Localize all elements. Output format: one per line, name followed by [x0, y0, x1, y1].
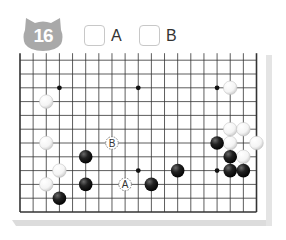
star-point	[57, 85, 62, 90]
white-stone	[223, 122, 237, 136]
black-stone	[210, 136, 224, 150]
answer-markers: AB	[106, 137, 132, 191]
black-stone	[145, 178, 159, 192]
white-stone	[250, 136, 264, 150]
white-stone	[39, 95, 53, 109]
star-point	[136, 168, 141, 173]
white-stone	[39, 136, 53, 150]
white-stone	[53, 164, 67, 178]
grid-lines	[20, 53, 257, 212]
black-stone	[237, 164, 251, 178]
black-stone	[53, 191, 67, 205]
black-stone	[79, 150, 93, 164]
white-stone	[223, 136, 237, 150]
board-right-shadow	[266, 55, 272, 226]
svg-text:A: A	[122, 179, 129, 190]
svg-text:B: B	[109, 138, 116, 149]
black-stone	[223, 150, 237, 164]
black-stone	[223, 164, 237, 178]
black-stone	[171, 164, 185, 178]
star-point	[136, 85, 141, 90]
marker-a[interactable]: A	[119, 178, 132, 191]
go-board-grid[interactable]: AB	[0, 0, 286, 240]
white-stone	[237, 150, 251, 164]
star-point	[215, 168, 220, 173]
white-stone	[237, 122, 251, 136]
white-stone	[39, 178, 53, 192]
black-stone	[79, 178, 93, 192]
star-point	[215, 85, 220, 90]
go-board[interactable]: AB	[0, 0, 286, 240]
board-bottom-shadow	[12, 220, 270, 226]
white-stone	[223, 81, 237, 95]
marker-b[interactable]: B	[106, 137, 119, 150]
